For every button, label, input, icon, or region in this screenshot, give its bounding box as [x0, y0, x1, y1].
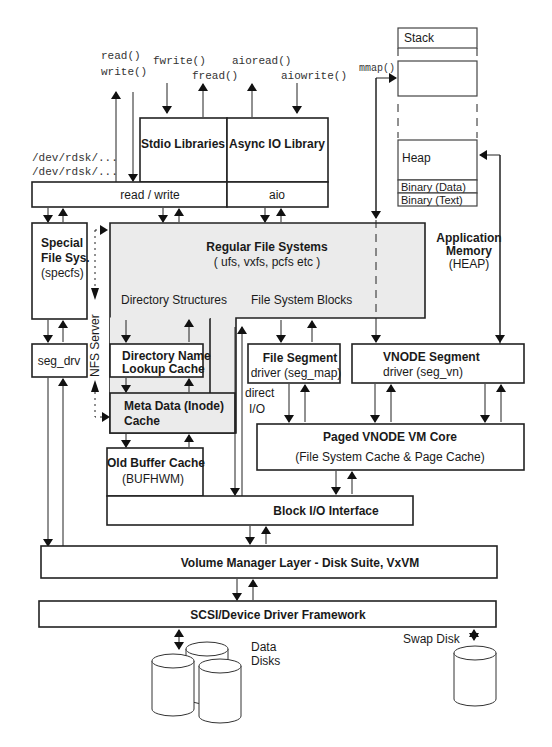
svg-text:Stdio Libraries: Stdio Libraries [141, 137, 225, 151]
svg-text:Disks: Disks [251, 654, 280, 668]
svg-text:(specfs): (specfs) [41, 266, 84, 280]
file-system-blocks-label: File System Blocks [251, 293, 352, 307]
direct-io-label: direct [245, 386, 275, 400]
label-read: read() [101, 50, 141, 62]
svg-text:Memory: Memory [446, 244, 492, 258]
svg-text:Async IO Library: Async IO Library [229, 137, 325, 151]
async-io-library-box: Async IO Library [227, 118, 328, 182]
label-write: write() [101, 66, 147, 78]
solaris-io-architecture-diagram: read() write() fwrite() fread() aioread(… [0, 0, 552, 747]
old-buffer-cache-box: Old Buffer Cache (BUFHWM) [107, 448, 205, 496]
svg-text:Stack: Stack [404, 31, 435, 45]
svg-text:Regular File Systems: Regular File Systems [206, 240, 328, 254]
special-file-system-box: Special File Sys. (specfs) [32, 223, 90, 319]
label-aioread: aioread() [232, 55, 291, 67]
svg-text:Directory Name: Directory Name [122, 349, 211, 363]
svg-text:aio: aio [269, 188, 285, 202]
svg-text:Volume Manager Layer - Disk Su: Volume Manager Layer - Disk Suite, VxVM [181, 556, 420, 570]
label-mmap: mmap() [359, 63, 395, 74]
svg-text:SCSI/Device Driver Framework: SCSI/Device Driver Framework [190, 608, 366, 622]
read-write-box: read / write [32, 182, 227, 207]
swap-disk-label: Swap Disk [403, 632, 461, 646]
mmap-arrow-icon [376, 78, 396, 218]
aio-box: aio [227, 182, 328, 207]
seg-to-vm-arrows [289, 384, 501, 422]
svg-text:Paged VNODE VM Core: Paged VNODE VM Core [323, 430, 457, 444]
svg-text:Block I/O Interface: Block I/O Interface [273, 504, 379, 518]
svg-text:(BUFHWM): (BUFHWM) [122, 472, 184, 486]
label-fwrite: fwrite() [153, 55, 206, 67]
svg-text:Binary (Data): Binary (Data) [401, 181, 466, 193]
paged-vnode-vm-core-box: Paged VNODE VM Core (File System Cache &… [257, 424, 524, 470]
svg-text:Cache: Cache [124, 414, 160, 428]
svg-text:driver (seg_vn): driver (seg_vn) [383, 365, 463, 379]
mmap-segment [398, 61, 477, 96]
svg-text:seg_drv: seg_drv [38, 354, 81, 368]
nfs-server-label: NFS Server [88, 314, 102, 377]
svg-text:Lookup Cache: Lookup Cache [122, 362, 205, 376]
svg-text:File Sys.: File Sys. [41, 251, 90, 265]
scsi-device-driver-framework-box: SCSI/Device Driver Framework [39, 601, 496, 627]
svg-text:Special: Special [41, 236, 83, 250]
label-fread: fread() [192, 70, 238, 82]
svg-text:read / write: read / write [120, 188, 180, 202]
svg-text:Old Buffer Cache: Old Buffer Cache [107, 456, 205, 470]
label-rdsk-2: /dev/rdsk/... [32, 166, 118, 178]
nfs-server-path: NFS Server [88, 230, 110, 422]
svg-text:Binary (Text): Binary (Text) [401, 194, 463, 206]
app-memory-title: Application [436, 231, 501, 245]
volume-manager-layer-box: Volume Manager Layer - Disk Suite, VxVM [41, 546, 497, 578]
svg-text:driver (seg_map): driver (seg_map) [251, 366, 342, 380]
svg-text:( ufs, vxfs, pcfs etc ): ( ufs, vxfs, pcfs etc ) [214, 255, 321, 269]
swap-disk-icon [454, 646, 496, 706]
svg-text:(File System Cache & Page Cach: (File System Cache & Page Cache) [295, 450, 484, 464]
meta-data-inode-cache-box: Meta Data (Inode) Cache [110, 393, 235, 433]
label-aiowrite: aiowrite() [281, 70, 347, 82]
file-segment-driver-box: File Segment driver (seg_map) [248, 344, 341, 383]
lib-to-fs-arrows [48, 208, 281, 222]
data-disks-icon [152, 642, 241, 723]
seg-drv-box: seg_drv [32, 344, 87, 377]
block-io-interface-box: Block I/O Interface [107, 496, 413, 525]
stdio-libraries-box: Stdio Libraries [140, 118, 227, 182]
directory-name-lookup-cache-box: Directory Name Lookup Cache [110, 344, 211, 377]
svg-text:Meta Data (Inode): Meta Data (Inode) [124, 399, 224, 413]
svg-text:VNODE Segment: VNODE Segment [383, 350, 480, 364]
label-rdsk-1: /dev/rdsk/... [32, 152, 118, 164]
svg-text:(HEAP): (HEAP) [449, 257, 490, 271]
svg-text:Heap: Heap [402, 151, 431, 165]
svg-text:File Segment: File Segment [263, 351, 338, 365]
vnode-segment-driver-box: VNODE Segment driver (seg_vn) [352, 344, 524, 383]
directory-structures-label: Directory Structures [121, 293, 227, 307]
svg-text:I/O: I/O [249, 402, 265, 416]
data-disks-label: Data [251, 640, 277, 654]
